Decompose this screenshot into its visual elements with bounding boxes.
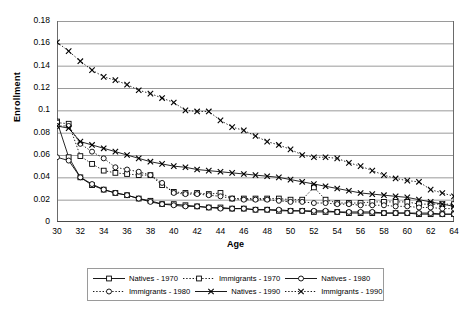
x-axis-title: Age [0,239,471,249]
plot-area [57,21,454,222]
y-tick-label: 0.12 [4,82,50,92]
y-tick-label: 0.16 [4,37,50,47]
y-tick-label: 0.02 [4,194,50,204]
x-tick-label: 32 [67,226,93,236]
x-tick-label: 44 [207,226,233,236]
legend-item[interactable]: Immigrants - 1990 [284,287,382,296]
legend-item-label: Immigrants - 1980 [129,287,190,296]
x-tick-label: 62 [418,226,444,236]
legend-row-2: Immigrants - 1980Natives - 1990Immigrant… [92,285,379,298]
x-tick-label: 48 [254,226,280,236]
y-tick-label: 0.04 [4,171,50,181]
legend-swatch-square-solid [92,274,126,283]
x-tick-label: 50 [278,226,304,236]
legend-swatch-x-dotted [284,287,318,296]
legend-swatch-square-dotted [182,274,216,283]
legend-item-label: Immigrants - 1970 [219,274,280,283]
legend-item-label: Immigrants - 1990 [321,287,382,296]
x-tick-label: 46 [231,226,257,236]
x-tick-label: 52 [301,226,327,236]
x-tick-label: 54 [324,226,350,236]
y-tick-label: 0 [4,216,50,226]
x-tick-label: 60 [394,226,420,236]
legend-swatch-circle-dotted [92,287,126,296]
legend-item-label: Natives - 1970 [129,274,178,283]
x-tick-label: 30 [44,226,70,236]
plot-svg [57,21,454,222]
x-tick-label: 38 [137,226,163,236]
y-tick-label: 0.06 [4,149,50,159]
y-tick-label: 0.08 [4,127,50,137]
legend-item[interactable]: Natives - 1990 [194,287,280,296]
y-tick-label: 0.1 [4,104,50,114]
x-tick-label: 58 [371,226,397,236]
legend-item[interactable]: Natives - 1970 [92,274,178,283]
legend-swatch-x-solid [194,287,228,296]
legend-item-label: Natives - 1990 [231,287,280,296]
x-tick-label: 42 [184,226,210,236]
x-tick-label: 36 [114,226,140,236]
y-tick-label: 0.14 [4,60,50,70]
legend-swatch-circle-solid [284,274,318,283]
legend-item-label: Natives - 1980 [321,274,370,283]
x-tick-label: 64 [441,226,467,236]
x-tick-label: 56 [348,226,374,236]
legend-item[interactable]: Natives - 1980 [284,274,370,283]
chart-container: Enrollment Age 00.020.040.060.080.10.120… [0,0,471,314]
legend-row-1: Natives - 1970Immigrants - 1970Natives -… [92,272,379,285]
legend-item[interactable]: Immigrants - 1970 [182,274,280,283]
legend-item[interactable]: Immigrants - 1980 [92,287,190,296]
x-tick-label: 40 [161,226,187,236]
legend: Natives - 1970Immigrants - 1970Natives -… [87,268,384,301]
y-tick-label: 0.18 [4,15,50,25]
x-tick-label: 34 [91,226,117,236]
